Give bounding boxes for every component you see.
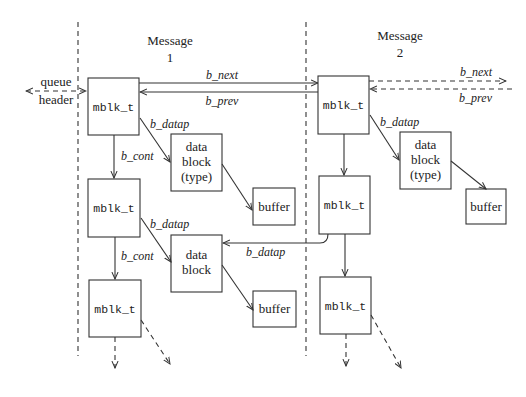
message-1-number: 1 xyxy=(167,50,174,65)
buffer-label: buffer xyxy=(259,301,291,316)
streams-message-diagram: Message 1 Message 2 queue header mblk_t … xyxy=(0,0,526,397)
data-block-label: data xyxy=(415,137,437,152)
data-block-label: block xyxy=(411,152,440,167)
b-prev-label: b_prev xyxy=(459,91,493,105)
mblk-label: mblk_t xyxy=(323,99,364,112)
data-block-label: data xyxy=(186,247,208,262)
b-datap-continuation-arrow xyxy=(371,315,401,368)
b-next-label: b_next xyxy=(460,65,493,79)
b-datap-label: b_datap xyxy=(380,115,419,129)
mblk-label: mblk_t xyxy=(93,202,134,215)
b-cont-label: b_cont xyxy=(121,149,154,163)
data-block-label: block xyxy=(182,262,211,277)
data-to-buffer-arrow xyxy=(451,161,486,189)
b-datap-label: b_datap xyxy=(150,117,189,131)
shared-b-datap-arrow xyxy=(223,234,328,243)
queue-header-label-line2: header xyxy=(39,92,74,107)
mblk-label: mblk_t xyxy=(325,300,366,313)
data-block-type-label: (type) xyxy=(410,167,441,182)
data-to-buffer-arrow xyxy=(222,265,253,310)
message-2-number: 2 xyxy=(397,45,404,60)
message-2-title: Message xyxy=(377,28,423,43)
message-1-title: Message xyxy=(147,33,193,48)
data-block-label: block xyxy=(182,154,211,169)
mblk-label: mblk_t xyxy=(94,303,135,316)
b-next-label: b_next xyxy=(206,68,239,82)
buffer-label: buffer xyxy=(258,199,290,214)
data-block-label: data xyxy=(186,139,208,154)
b-datap-label: b_datap xyxy=(150,217,189,231)
b-cont-label: b_cont xyxy=(121,249,154,263)
mblk-label: mblk_t xyxy=(324,199,365,212)
mblk-label: mblk_t xyxy=(93,101,134,114)
data-block-type-label: (type) xyxy=(181,169,212,184)
buffer-label: buffer xyxy=(470,199,502,214)
b-datap-label: b_datap xyxy=(246,245,285,259)
b-prev-label: b_prev xyxy=(206,94,240,108)
queue-header-label-line1: queue xyxy=(40,74,71,89)
b-datap-continuation-arrow xyxy=(141,320,170,364)
data-to-buffer-arrow xyxy=(222,164,252,210)
